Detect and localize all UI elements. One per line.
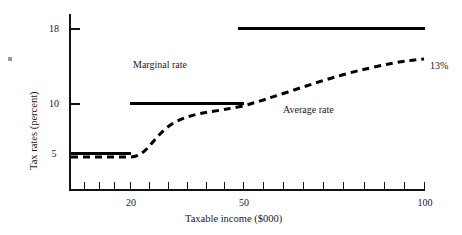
marginal-rate-label: Marginal rate bbox=[133, 59, 187, 70]
average-rate-path bbox=[71, 59, 424, 157]
tax-rates-chart: 18 10 5 Tax rates (percent) 20 50 100 Ta… bbox=[0, 0, 462, 235]
average-rate-curve bbox=[0, 0, 462, 235]
average-rate-end-value-label: 13% bbox=[430, 60, 448, 71]
average-rate-label: Average rate bbox=[283, 104, 334, 115]
